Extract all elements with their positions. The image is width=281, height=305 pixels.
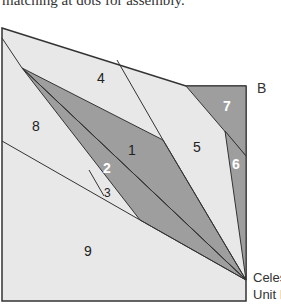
piece-label-4: 4 <box>97 70 105 86</box>
piece-label-5: 5 <box>193 139 201 155</box>
piece-label-8: 8 <box>32 118 40 134</box>
piece-label-2: 2 <box>103 160 111 176</box>
piece-label-3: 3 <box>104 186 111 200</box>
unit-label-line2: Unit I <box>253 287 281 302</box>
quilt-pattern-diagram <box>0 0 281 305</box>
corner-label-b: B <box>257 80 266 96</box>
piece-label-1: 1 <box>128 142 136 158</box>
unit-label-line1: Celes <box>253 270 281 285</box>
piece-label-7: 7 <box>223 98 231 114</box>
piece-label-6: 6 <box>232 156 240 172</box>
piece-label-9: 9 <box>84 243 92 259</box>
